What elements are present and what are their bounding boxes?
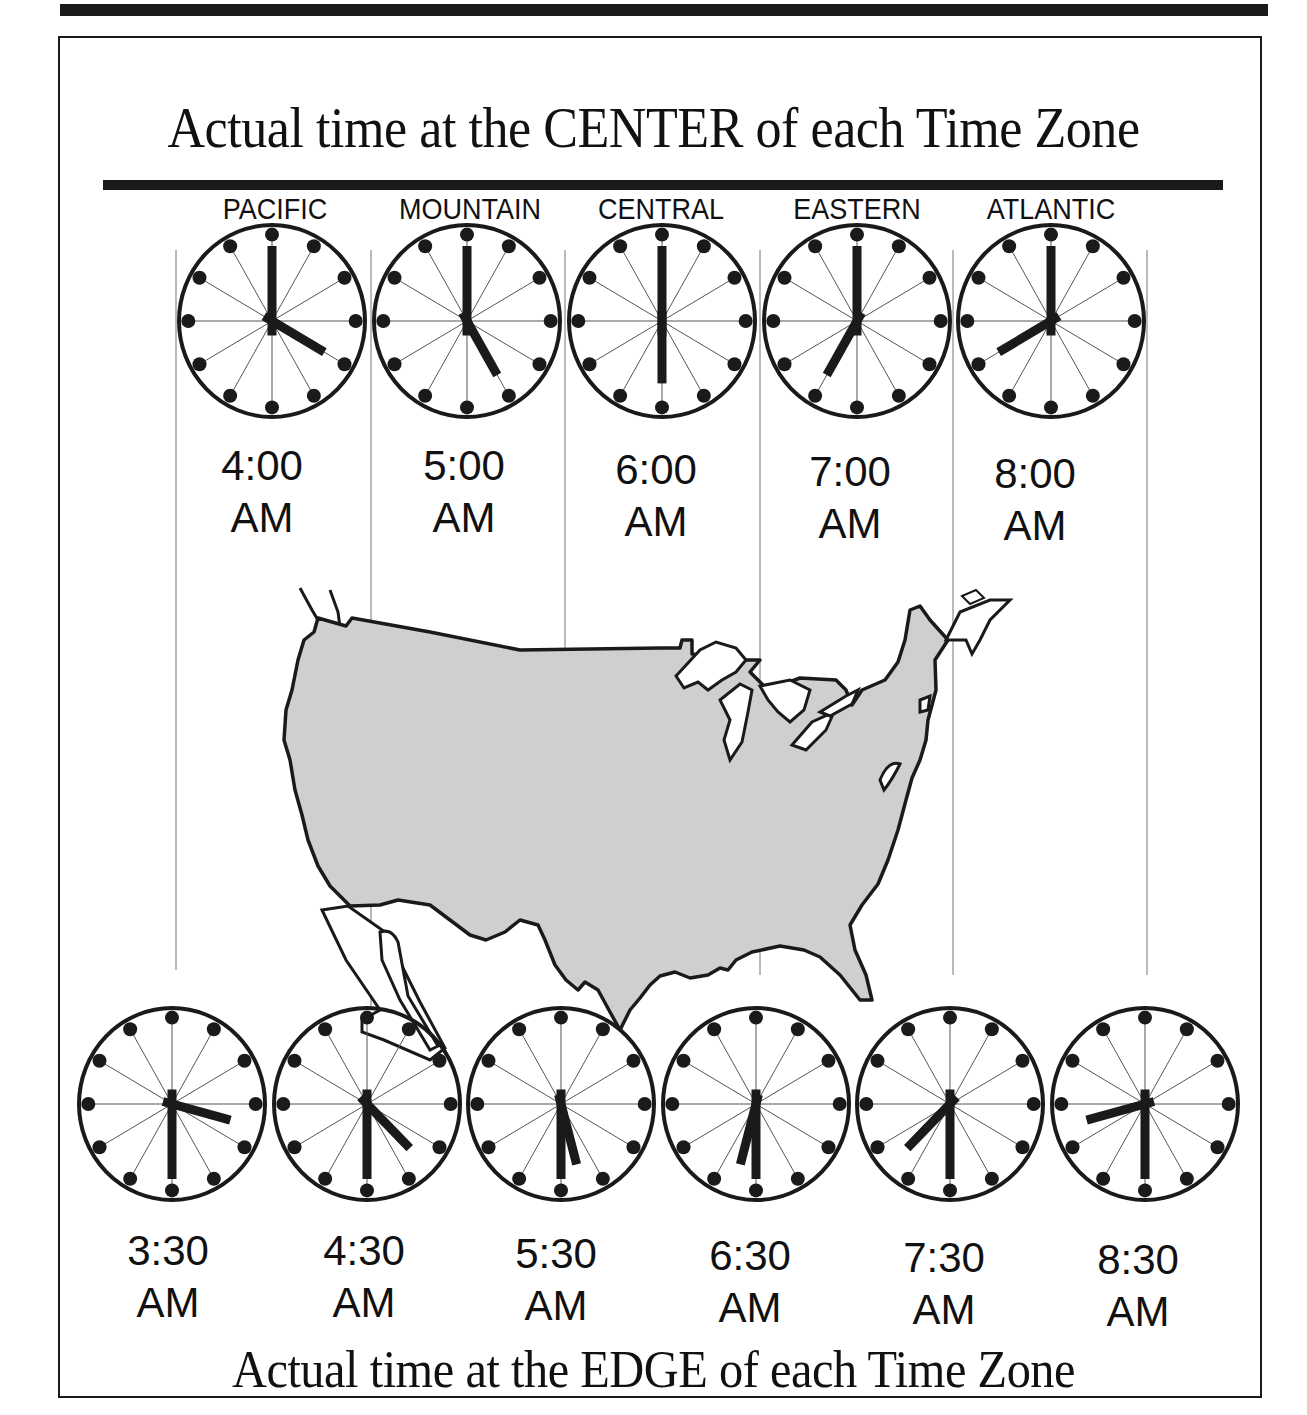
title-edge: Actual time at the EDGE of each Time Zon… xyxy=(46,1340,1262,1399)
center-time-pacific: 4:00AM xyxy=(182,440,342,544)
edge-time-4: 6:30AM xyxy=(670,1230,830,1334)
edge-time-3: 5:30AM xyxy=(476,1228,636,1332)
center-time-mountain: 5:00AM xyxy=(384,440,544,544)
clock-center-pacific xyxy=(179,225,365,417)
clock-center-eastern xyxy=(764,225,950,417)
clock-edge-2 xyxy=(274,1008,460,1200)
clock-edge-1 xyxy=(79,1008,265,1200)
clock-edge-5 xyxy=(857,1008,1043,1200)
edge-time-2: 4:30AM xyxy=(284,1225,444,1329)
center-time-atlantic: 8:00AM xyxy=(955,448,1115,552)
edge-time-1: 3:30AM xyxy=(88,1225,248,1329)
us-map xyxy=(284,588,1010,1060)
clock-edge-3 xyxy=(468,1008,654,1200)
clock-edge-4 xyxy=(663,1008,849,1200)
clock-center-central xyxy=(569,225,755,417)
clock-center-atlantic xyxy=(958,225,1144,417)
center-time-eastern: 7:00AM xyxy=(770,446,930,550)
clock-center-mountain xyxy=(374,225,560,417)
clock-edge-6 xyxy=(1052,1008,1238,1200)
edge-time-6: 8:30AM xyxy=(1058,1234,1218,1338)
diagram-graphics xyxy=(0,0,1307,1415)
edge-time-5: 7:30AM xyxy=(864,1232,1024,1336)
center-time-central: 6:00AM xyxy=(576,444,736,548)
